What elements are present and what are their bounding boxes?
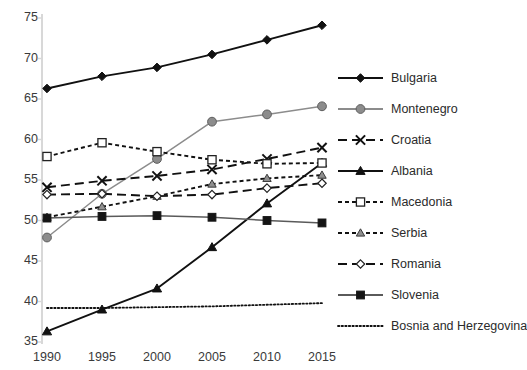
legend-key-none-icon xyxy=(337,319,384,333)
legend-label: Slovenia xyxy=(384,288,439,302)
legend-key-triangle-gray-icon xyxy=(337,226,384,240)
legend-label: Montenegro xyxy=(384,102,458,116)
legend-label: Serbia xyxy=(384,226,427,240)
y-tick-65: 65 xyxy=(4,91,38,105)
legend-label: Macedonia xyxy=(384,195,452,209)
legend-key-square-open-icon xyxy=(337,195,384,209)
legend-key-cross-icon xyxy=(337,133,384,147)
legend-key-square-icon xyxy=(337,288,384,302)
legend-item-bosnia-and-herzegovina[interactable]: Bosnia and Herzegovina xyxy=(337,310,487,341)
legend-item-albania[interactable]: Albania xyxy=(337,155,487,186)
legend-item-romania[interactable]: Romania xyxy=(337,248,487,279)
x-tick-2010: 2010 xyxy=(244,350,290,364)
legend-label: Bosnia and Herzegovina xyxy=(384,319,527,333)
legend-item-croatia[interactable]: Croatia xyxy=(337,124,487,155)
x-tick-1990: 1990 xyxy=(24,350,70,364)
legend-key-diamond-icon xyxy=(337,71,384,85)
legend-label: Bulgaria xyxy=(384,71,437,85)
y-tick-35: 35 xyxy=(4,334,38,348)
legend-key-circle-icon xyxy=(337,102,384,116)
x-tick-2005: 2005 xyxy=(189,350,235,364)
y-tick-40: 40 xyxy=(4,294,38,308)
series-macedonia xyxy=(43,139,326,168)
legend-item-serbia[interactable]: Serbia xyxy=(337,217,487,248)
legend-label: Croatia xyxy=(384,133,431,147)
legend-key-triangle-icon xyxy=(337,164,384,178)
legend-item-montenegro[interactable]: Montenegro xyxy=(337,93,487,124)
y-tick-45: 45 xyxy=(4,253,38,267)
series-serbia xyxy=(43,171,326,220)
x-tick-1995: 1995 xyxy=(79,350,125,364)
series-slovenia xyxy=(43,212,326,227)
legend-label: Albania xyxy=(384,164,433,178)
y-tick-75: 75 xyxy=(4,10,38,24)
y-tick-70: 70 xyxy=(4,51,38,65)
chart-legend: BulgariaMontenegroCroatiaAlbaniaMacedoni… xyxy=(337,62,487,341)
legend-item-slovenia[interactable]: Slovenia xyxy=(337,279,487,310)
y-tick-60: 60 xyxy=(4,132,38,146)
x-tick-2000: 2000 xyxy=(134,350,180,364)
series-bosnia-and-herzegovina xyxy=(47,303,322,308)
legend-key-diamond-open-icon xyxy=(337,257,384,271)
legend-item-macedonia[interactable]: Macedonia xyxy=(337,186,487,217)
series-croatia xyxy=(42,143,326,192)
legend-item-bulgaria[interactable]: Bulgaria xyxy=(337,62,487,93)
y-tick-55: 55 xyxy=(4,172,38,186)
x-tick-2015: 2015 xyxy=(299,350,345,364)
y-tick-50: 50 xyxy=(4,213,38,227)
series-bulgaria xyxy=(43,21,327,93)
legend-label: Romania xyxy=(384,257,441,271)
